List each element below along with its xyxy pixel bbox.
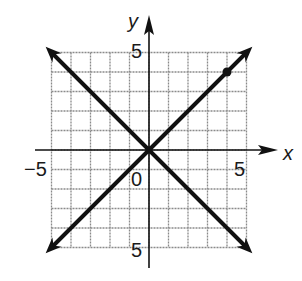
x-tick-5: 5 bbox=[234, 158, 245, 180]
x-axis-label: x bbox=[282, 142, 294, 164]
data-point bbox=[223, 68, 232, 77]
origin-point bbox=[146, 147, 153, 154]
coordinate-plane: y x −5 5 5 5 0 bbox=[0, 0, 302, 281]
x-tick-neg5: −5 bbox=[24, 158, 47, 180]
y-axis-label: y bbox=[126, 10, 139, 32]
y-tick-neg5: 5 bbox=[131, 239, 142, 261]
origin-label: 0 bbox=[131, 168, 142, 190]
axis-labels: y x −5 5 5 5 0 bbox=[24, 10, 294, 261]
y-tick-5: 5 bbox=[131, 40, 142, 62]
